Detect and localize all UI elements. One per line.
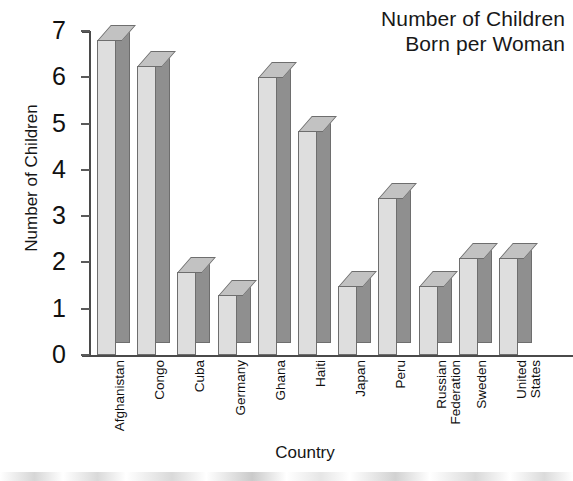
plot-area	[89, 8, 573, 355]
bar	[97, 22, 131, 355]
bar-top-face	[378, 183, 417, 199]
bar-top-face	[137, 51, 176, 67]
bar-top-face	[177, 257, 216, 273]
bar	[378, 180, 412, 355]
bar-front-face	[378, 198, 397, 355]
bar-front-face	[97, 40, 116, 355]
bar	[218, 277, 252, 355]
bar-side-face	[518, 246, 532, 343]
bar-front-face	[338, 286, 357, 355]
bar-top-face	[499, 243, 538, 259]
bar-front-face	[499, 258, 518, 355]
bar-top-face	[459, 243, 498, 259]
bar-side-face	[397, 186, 411, 343]
x-axis-tick-label: Russian Federation	[435, 360, 463, 481]
x-axis-tick-label: Cuba	[193, 360, 207, 481]
bar-front-face	[258, 77, 277, 355]
bar	[137, 48, 171, 355]
bar-top-face	[298, 116, 337, 132]
bar-chart: Number of Children Born per Woman Number…	[0, 0, 573, 481]
bar-front-face	[137, 66, 156, 355]
x-axis-line	[89, 355, 573, 357]
bar	[298, 113, 332, 355]
x-axis-tick-label: Congo	[153, 360, 167, 481]
y-axis-tick-label: 3	[26, 203, 66, 228]
y-axis-tick-label: 1	[26, 296, 66, 321]
scan-artifact-strip	[0, 472, 573, 481]
bar-front-face	[298, 131, 317, 355]
bar-side-face	[478, 246, 492, 343]
bar	[338, 268, 372, 355]
y-axis-tick-label: 5	[26, 111, 66, 136]
bar	[177, 254, 211, 355]
bar-front-face	[419, 286, 438, 355]
bar-top-face	[338, 271, 377, 287]
x-axis-tick-label: Peru	[394, 360, 408, 481]
bar-top-face	[419, 271, 458, 287]
bar-top-face	[97, 25, 136, 41]
y-axis-tick-label: 6	[26, 64, 66, 89]
bar	[499, 240, 533, 355]
x-axis-tick-label: United States	[515, 360, 543, 481]
bar-side-face	[116, 28, 130, 343]
bar	[258, 59, 292, 355]
bar-front-face	[218, 295, 237, 355]
x-axis-tick-label: Sweden	[475, 360, 489, 481]
bar-top-face	[258, 62, 297, 78]
y-axis-tick-label: 7	[26, 18, 66, 43]
y-axis-tick-label: 2	[26, 249, 66, 274]
bar-side-face	[317, 119, 331, 343]
bar-front-face	[177, 272, 196, 355]
bar-front-face	[459, 258, 478, 355]
bar-side-face	[156, 54, 170, 343]
y-axis-tick-label: 0	[26, 342, 66, 367]
x-axis-title: Country	[245, 443, 365, 463]
x-axis-tick-label: Afghanistan	[113, 360, 127, 481]
y-axis-tick-label: 4	[26, 157, 66, 182]
bar	[419, 268, 453, 355]
bar-side-face	[277, 65, 291, 343]
bar	[459, 240, 493, 355]
bar-top-face	[218, 280, 257, 296]
